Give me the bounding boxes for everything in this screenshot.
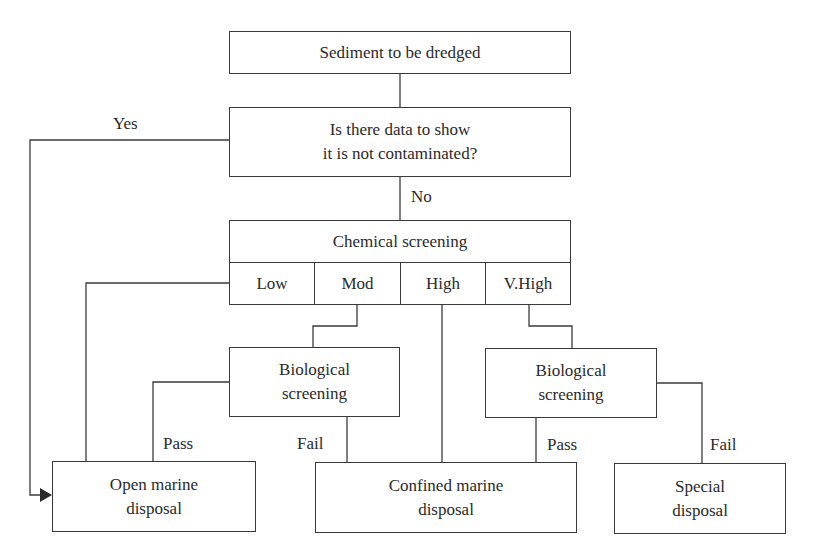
level-low: Low xyxy=(230,263,315,304)
edge-label-bio2-pass: Pass xyxy=(547,435,577,455)
node-biological-screening-1: Biological screening xyxy=(229,347,400,417)
node-label: Biological screening xyxy=(279,358,350,406)
node-confined-marine-disposal: Confined marine disposal xyxy=(315,462,577,533)
node-label: Open marine disposal xyxy=(110,473,198,521)
node-label: Chemical screening xyxy=(333,230,468,254)
level-mod: Mod xyxy=(315,263,401,304)
edge-mod-bio1 xyxy=(313,304,357,347)
edge-label-no: No xyxy=(411,187,432,207)
edge-low-open-marine xyxy=(86,283,229,461)
level-high: High xyxy=(401,263,486,304)
node-chemical-screening: Chemical screening Low Mod High V.High xyxy=(229,220,571,305)
edge-label-bio1-pass: Pass xyxy=(163,434,193,454)
node-contamination-question: Is there data to show it is not contamin… xyxy=(229,107,571,177)
node-label: Biological screening xyxy=(536,359,607,407)
node-special-disposal: Special disposal xyxy=(614,463,786,534)
edge-label-bio1-fail: Fail xyxy=(297,434,323,454)
node-open-marine-disposal: Open marine disposal xyxy=(52,461,256,532)
node-label: Is there data to show it is not contamin… xyxy=(323,118,477,166)
edge-label-yes: Yes xyxy=(113,114,138,134)
edge-label-bio2-fail: Fail xyxy=(710,435,736,455)
node-label: Special disposal xyxy=(672,475,728,523)
node-sediment-to-be-dredged: Sediment to be dredged xyxy=(229,31,571,74)
node-label: Sediment to be dredged xyxy=(320,41,481,65)
flowchart-canvas: Sediment to be dredged Is there data to … xyxy=(0,0,814,559)
node-label: Confined marine disposal xyxy=(389,474,504,522)
node-biological-screening-2: Biological screening xyxy=(485,348,657,418)
edge-vhigh-bio2 xyxy=(529,304,572,348)
edge-yes-open-marine xyxy=(30,140,229,495)
arrowhead-icon xyxy=(40,488,52,502)
edge-bio2-fail xyxy=(657,383,702,463)
level-very-high: V.High xyxy=(486,263,570,304)
chemical-screening-title: Chemical screening xyxy=(230,221,570,263)
